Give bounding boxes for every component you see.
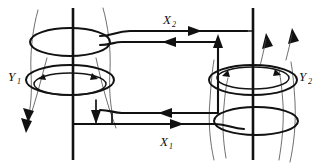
inner-bottom-arrowhead-left xyxy=(158,108,172,118)
label-x2: X 2 xyxy=(162,12,176,29)
label-x1-sub: 1 xyxy=(169,142,173,151)
right-field-line-inner-left xyxy=(223,78,228,158)
left-field-line-outer-left xyxy=(28,10,38,120)
inner-top-arrowhead-left xyxy=(162,37,176,47)
inner-rectangle-loop xyxy=(91,34,223,124)
right-field-arrowhead-up-inner xyxy=(262,33,273,49)
label-y2-base: Y xyxy=(299,69,308,84)
left-upper-coil-turn xyxy=(30,28,110,56)
label-x2-base: X xyxy=(162,12,172,27)
left-connector-arrowhead-down xyxy=(91,110,101,124)
bottom-wire-arrowhead-right xyxy=(170,119,184,129)
label-y1: Y 1 xyxy=(8,69,21,86)
label-y2-sub: 2 xyxy=(308,77,312,86)
inner-loop-path xyxy=(100,42,218,113)
right-field-line-outer-right xyxy=(290,62,295,162)
label-x1: X 1 xyxy=(159,134,173,151)
right-field-line-arrow-tail-inner xyxy=(260,39,266,66)
left-field-line-inner-left xyxy=(26,58,47,131)
figure-container: X 2 X 1 Y 1 Y 2 xyxy=(0,0,323,167)
label-x2-sub: 2 xyxy=(172,20,176,29)
left-field-arrowhead-down-outer xyxy=(21,118,32,133)
coupled-coil-diagram: X 2 X 1 Y 1 Y 2 xyxy=(0,0,323,167)
label-y1-base: Y xyxy=(8,69,17,84)
right-field-arrowhead-up-outer xyxy=(288,28,299,44)
right-lower-coil-turn xyxy=(214,107,298,135)
label-y2: Y 2 xyxy=(299,69,312,86)
label-y1-sub: 1 xyxy=(17,77,21,86)
left-field-line-outer-right xyxy=(103,8,112,112)
right-field-line-arrow-tail-outer xyxy=(286,34,292,60)
top-wire-arrowhead-right xyxy=(188,26,202,36)
label-x1-base: X xyxy=(159,134,169,149)
